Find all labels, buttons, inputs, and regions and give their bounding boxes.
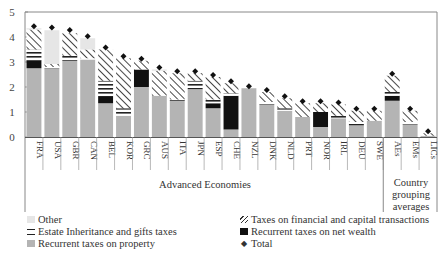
- x-tick-label: AEs: [393, 141, 403, 157]
- segment-prop: [421, 136, 436, 137]
- legend-label: Estate Inheritance and gifts taxes: [38, 226, 177, 237]
- segment-estate: [170, 100, 185, 101]
- total-diamond-icon: [67, 27, 73, 33]
- segment-prop: [170, 101, 185, 137]
- group-label-averages-2: grouping: [392, 189, 431, 200]
- y-tick-label: 3: [9, 56, 15, 68]
- segment-estate: [206, 100, 221, 104]
- bar-nor: [313, 98, 328, 137]
- estate-swatch-icon: [27, 229, 35, 235]
- bar-irl: [331, 100, 346, 138]
- group-label-averages-3: averages: [393, 201, 430, 212]
- segment-fin: [134, 61, 149, 70]
- segment-estate: [277, 108, 292, 111]
- x-tick-label: ITA: [178, 141, 188, 156]
- x-tick-label: GBR: [71, 141, 81, 160]
- x-tick-label: CAN: [89, 141, 99, 161]
- bar-usa: [44, 25, 59, 138]
- segment-prop: [367, 121, 382, 137]
- bar-bel: [98, 45, 113, 138]
- other-swatch-icon: [27, 216, 35, 223]
- segment-prop: [188, 90, 203, 138]
- segment-prop: [152, 96, 167, 137]
- bar-che: [224, 78, 239, 137]
- segment-estate: [27, 50, 42, 61]
- segment-prop: [385, 101, 400, 137]
- segment-prop: [295, 117, 310, 137]
- legend-item-net-wealth: Recurrent taxes on net wealth: [240, 226, 376, 237]
- segment-prop: [116, 116, 131, 137]
- segment-estate: [116, 108, 131, 116]
- net-wealth-swatch-icon: [240, 228, 248, 235]
- segment-prop: [241, 88, 256, 137]
- x-tick-label: DNK: [268, 141, 278, 161]
- segment-fin: [331, 105, 346, 116]
- bar-esp: [206, 72, 221, 137]
- segment-estate: [403, 122, 418, 125]
- bar-dnk: [259, 87, 274, 137]
- x-tick-label: NZL: [250, 141, 260, 158]
- segment-fin: [259, 92, 274, 102]
- segment-prop: [313, 127, 328, 137]
- legend-label: Recurrent taxes on net wealth: [251, 226, 376, 237]
- bar-nld: [277, 93, 292, 137]
- segment-prop: [98, 103, 113, 137]
- bar-gbr: [62, 27, 77, 137]
- y-tick-label: 2: [9, 81, 15, 93]
- x-tick-label: CHE: [232, 141, 242, 160]
- x-tick-label: FRA: [35, 141, 45, 159]
- x-tick-label: IRL: [339, 141, 349, 156]
- segment-nw: [313, 112, 328, 127]
- bar-fra: [27, 23, 42, 137]
- bar-ems: [403, 106, 418, 137]
- legend-item-total: ◆ Total: [240, 238, 272, 249]
- segment-fin: [295, 103, 310, 117]
- bar-prt: [295, 98, 310, 137]
- x-tick-label: ESP: [214, 141, 224, 157]
- group-label-averages-1: Country: [394, 177, 429, 188]
- legend-item-property: Recurrent taxes on property: [27, 238, 155, 249]
- segment-fin: [313, 103, 328, 112]
- segment-estate: [331, 116, 346, 119]
- segment-estate: [98, 81, 113, 97]
- bar-aus: [152, 65, 167, 138]
- segment-prop: [80, 60, 95, 138]
- segment-other: [80, 38, 95, 49]
- segment-fin: [44, 64, 59, 67]
- segment-fin: [62, 33, 77, 56]
- x-tick-label: DEU: [357, 141, 367, 160]
- bar-ita: [170, 68, 185, 137]
- segment-fin: [206, 77, 221, 100]
- legend-label: Taxes on financial and capital transacti…: [251, 214, 429, 225]
- y-tick-label: 1: [9, 106, 15, 118]
- group-label-advanced: Advanced Economies: [159, 179, 251, 190]
- x-tick-label: AUS: [160, 141, 170, 159]
- segment-prop: [331, 118, 346, 137]
- segment-prop: [27, 68, 42, 137]
- legend-item-other: Other: [27, 214, 62, 225]
- segment-fin: [403, 111, 418, 122]
- segment-fin: [277, 98, 292, 108]
- segment-fin: [385, 76, 400, 92]
- segment-estate: [188, 81, 203, 90]
- segment-prop: [44, 68, 59, 137]
- segment-nw: [224, 96, 239, 130]
- segment-estate: [259, 102, 274, 105]
- segment-prop: [134, 87, 149, 137]
- bar-deu: [349, 106, 364, 137]
- segment-fin: [80, 50, 95, 59]
- segment-nw: [134, 70, 149, 88]
- bar-swe: [367, 106, 382, 137]
- x-tick-label: PRT: [304, 141, 314, 157]
- x-tick-label: JPN: [196, 141, 206, 157]
- segment-prop: [403, 125, 418, 138]
- segment-estate: [349, 122, 364, 126]
- bars: [27, 23, 436, 137]
- legend-label: Other: [38, 214, 62, 225]
- segment-estate: [224, 93, 239, 96]
- segment-estate: [385, 92, 400, 96]
- legend-item-financial: Taxes on financial and capital transacti…: [240, 214, 429, 225]
- segment-nw: [385, 96, 400, 101]
- segment-prop: [224, 130, 239, 138]
- segment-prop: [277, 111, 292, 137]
